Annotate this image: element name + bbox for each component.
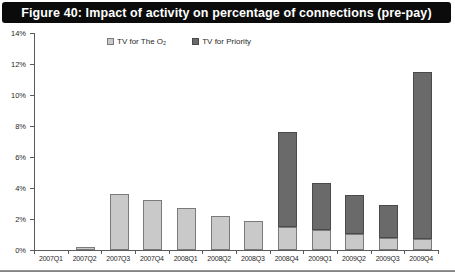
x-category-label: 2009Q3 <box>376 255 400 262</box>
y-tick-label: 2% <box>15 215 26 224</box>
x-category-label: 2009Q1 <box>308 255 332 262</box>
x-category-label: 2009Q2 <box>342 255 366 262</box>
x-tick-mark <box>303 251 304 254</box>
x-category-label: 2007Q2 <box>73 255 97 262</box>
bar-2007Q3-tv-for-the-o <box>110 194 129 250</box>
y-tick-label: 6% <box>15 153 26 162</box>
x-tick-mark <box>270 251 271 254</box>
bar-2009Q1-tv-for-the-o <box>312 230 331 250</box>
bar-2009Q2-tv-for-priority <box>345 195 364 234</box>
x-tick-mark <box>68 251 69 254</box>
y-tick-label: 4% <box>15 184 26 193</box>
figure-panel: Figure 40: Impact of activity on percent… <box>0 0 455 279</box>
bar-2009Q4-tv-for-the-o <box>413 239 432 250</box>
x-tick-mark <box>34 251 35 254</box>
bar-2009Q3-tv-for-priority <box>379 205 398 238</box>
x-category-label: 2009Q4 <box>409 255 433 262</box>
legend-label: TV for The O₂ <box>117 37 166 46</box>
x-tick-mark <box>236 251 237 254</box>
x-category-label: 2008Q1 <box>174 255 198 262</box>
x-category-label: 2007Q3 <box>106 255 130 262</box>
y-tick-label: 8% <box>15 122 26 131</box>
x-tick-mark <box>202 251 203 254</box>
legend-item: TV for Priority <box>192 37 251 46</box>
bar-2009Q3-tv-for-the-o <box>379 238 398 250</box>
y-tick-label: 12% <box>11 60 26 69</box>
bar-2009Q1-tv-for-priority <box>312 183 331 230</box>
y-tick-label: 0% <box>15 246 26 255</box>
figure-title-bar: Figure 40: Impact of activity on percent… <box>2 2 451 23</box>
x-category-label: 2008Q2 <box>207 255 231 262</box>
bar-2008Q3-tv-for-the-o <box>244 221 263 250</box>
legend-label: TV for Priority <box>202 37 251 46</box>
x-tick-mark <box>337 251 338 254</box>
x-tick-mark <box>404 251 405 254</box>
x-tick-mark <box>371 251 372 254</box>
x-tick-mark <box>101 251 102 254</box>
x-category-label: 2008Q3 <box>241 255 265 262</box>
figure-title: Figure 40: Impact of activity on percent… <box>21 6 431 20</box>
bar-2007Q4-tv-for-the-o <box>143 200 162 250</box>
x-category-label: 2007Q4 <box>140 255 164 262</box>
bar-2009Q4-tv-for-priority <box>413 72 432 239</box>
bottom-divider <box>0 270 455 272</box>
legend-swatch-icon <box>192 38 199 45</box>
bar-2009Q2-tv-for-the-o <box>345 234 364 250</box>
legend: TV for The O₂TV for Priority <box>107 37 251 46</box>
x-tick-mark <box>438 251 439 254</box>
legend-swatch-icon <box>107 38 114 45</box>
x-axis: 2007Q12007Q22007Q32007Q42008Q12008Q22008… <box>34 251 438 267</box>
bar-2008Q1-tv-for-the-o <box>177 208 196 250</box>
x-tick-mark <box>169 251 170 254</box>
x-category-label: 2007Q1 <box>39 255 63 262</box>
y-tick-label: 14% <box>11 29 26 38</box>
y-tick-label: 10% <box>11 91 26 100</box>
x-tick-mark <box>135 251 136 254</box>
plot-area: TV for The O₂TV for Priority <box>34 33 439 251</box>
legend-item: TV for The O₂ <box>107 37 166 46</box>
bar-2008Q4-tv-for-the-o <box>278 227 297 250</box>
y-axis: 0%2%4%6%8%10%12%14% <box>0 33 34 250</box>
x-category-label: 2008Q4 <box>275 255 299 262</box>
bar-2007Q2-tv-for-the-o <box>76 247 95 250</box>
bar-2008Q2-tv-for-the-o <box>211 216 230 250</box>
bar-2008Q4-tv-for-priority <box>278 132 297 227</box>
